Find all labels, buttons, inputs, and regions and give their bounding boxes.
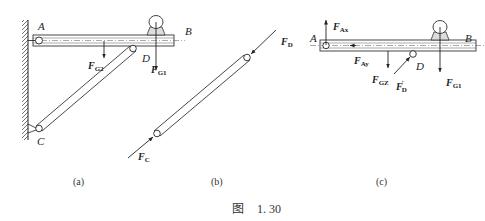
label-force-ax: FAx (332, 21, 349, 34)
label-force-c: FC (137, 151, 150, 164)
caption-b: (b) (211, 176, 223, 188)
label-force-ay: FAy (353, 55, 369, 68)
panel-a: A B D C FG2 FG1 (a) (22, 16, 192, 189)
figure-caption-prefix: 图 (232, 202, 244, 216)
force-d-prime-arrow (394, 57, 410, 74)
label-c: C (37, 135, 45, 147)
caption-a: (a) (73, 176, 84, 188)
force-d-arrow (251, 30, 276, 54)
label-a: A (37, 20, 45, 32)
label-force-g1: FG1 (150, 64, 167, 77)
label-force-g2: FG2 (87, 60, 104, 73)
strut-cd (28, 45, 136, 133)
figure-caption-number: 1. 30 (257, 202, 281, 216)
label-b-c: B (465, 32, 472, 44)
label-force-d: FD (280, 36, 293, 49)
beam-ab (28, 35, 185, 46)
figure-1-30: A B D C FG2 FG1 (a) FD FC (b) (0, 0, 485, 221)
panel-b: FD FC (b) (128, 30, 293, 188)
wall-hatch (22, 20, 28, 140)
beam-ab-free-body (310, 40, 485, 51)
label-d-c: D (415, 60, 424, 72)
pin-d-c (410, 51, 417, 58)
label-b: B (185, 25, 192, 37)
pin-d (130, 45, 137, 52)
pin-d-b (244, 54, 251, 61)
label-force-d-prime: F′D (395, 79, 407, 94)
label-force-gz: FGZ (371, 74, 389, 87)
caption-c: (c) (376, 176, 387, 188)
pin-c-b (154, 130, 161, 137)
label-d: D (141, 52, 150, 64)
strut-free-body (154, 54, 251, 137)
panel-c: A B D FAx FAy FGZ F′D FG1 (c) (309, 20, 485, 188)
pin-a (36, 37, 43, 44)
label-force-g1-c: FG1 (445, 77, 462, 90)
label-a-c: A (309, 32, 317, 44)
pin-c (36, 125, 43, 132)
